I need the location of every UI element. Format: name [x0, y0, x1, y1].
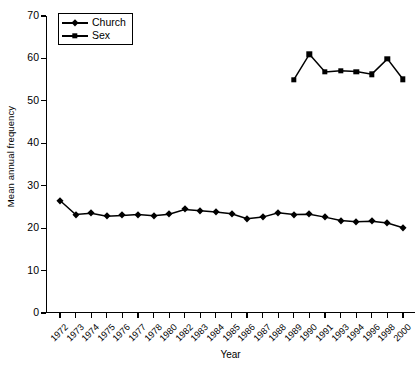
x-tick	[371, 313, 372, 318]
x-tick	[324, 313, 325, 318]
square-marker-icon	[62, 30, 88, 41]
x-tick	[75, 313, 76, 318]
data-point-sex	[369, 71, 374, 76]
x-tick	[59, 313, 60, 318]
data-point-sex	[307, 51, 312, 56]
x-tick	[309, 313, 310, 318]
data-point-sex	[385, 56, 390, 61]
x-axis-title-text: Year	[220, 349, 240, 360]
x-tick	[200, 313, 201, 318]
x-tick	[293, 313, 294, 318]
data-point-sex	[322, 69, 327, 74]
x-tick	[122, 313, 123, 318]
y-axis-title: Mean annual frequency	[0, 0, 22, 313]
y-tick-label: 20	[27, 221, 39, 233]
x-axis-title: Year	[46, 349, 415, 360]
plot-area: 010203040506070 197219731974197519761977…	[46, 16, 415, 313]
x-tick	[387, 313, 388, 318]
y-tick-label: 40	[27, 136, 39, 148]
chart-legend: Church Sex	[58, 13, 133, 45]
x-tick	[262, 313, 263, 318]
data-point-sex	[354, 69, 359, 74]
series-lines	[46, 16, 415, 313]
legend-item-sex: Sex	[62, 29, 126, 42]
legend-label-church: Church	[92, 17, 126, 28]
y-tick-label: 30	[27, 179, 39, 191]
x-tick	[246, 313, 247, 318]
y-tick-label: 0	[33, 306, 39, 318]
x-tick	[278, 313, 279, 318]
x-tick	[184, 313, 185, 318]
legend-label-sex: Sex	[92, 30, 110, 41]
diamond-marker-icon	[62, 17, 88, 28]
x-tick	[215, 313, 216, 318]
y-tick-label: 60	[27, 51, 39, 63]
y-tick-label: 50	[27, 94, 39, 106]
x-tick	[402, 313, 403, 318]
data-point-sex	[400, 77, 405, 82]
y-tick-label: 70	[27, 9, 39, 21]
y-axis-title-text: Mean annual frequency	[6, 106, 17, 207]
x-tick-label: 2000	[392, 322, 414, 344]
x-tick	[106, 313, 107, 318]
data-point-sex	[291, 77, 296, 82]
y-tick-label: 10	[27, 264, 39, 276]
x-tick	[137, 313, 138, 318]
x-tick	[356, 313, 357, 318]
legend-item-church: Church	[62, 16, 126, 29]
data-point-sex	[338, 68, 343, 73]
x-tick	[340, 313, 341, 318]
x-tick	[169, 313, 170, 318]
x-tick	[91, 313, 92, 318]
x-tick	[231, 313, 232, 318]
chart-figure: Mean annual frequency 010203040506070 19…	[0, 0, 419, 372]
x-tick	[153, 313, 154, 318]
